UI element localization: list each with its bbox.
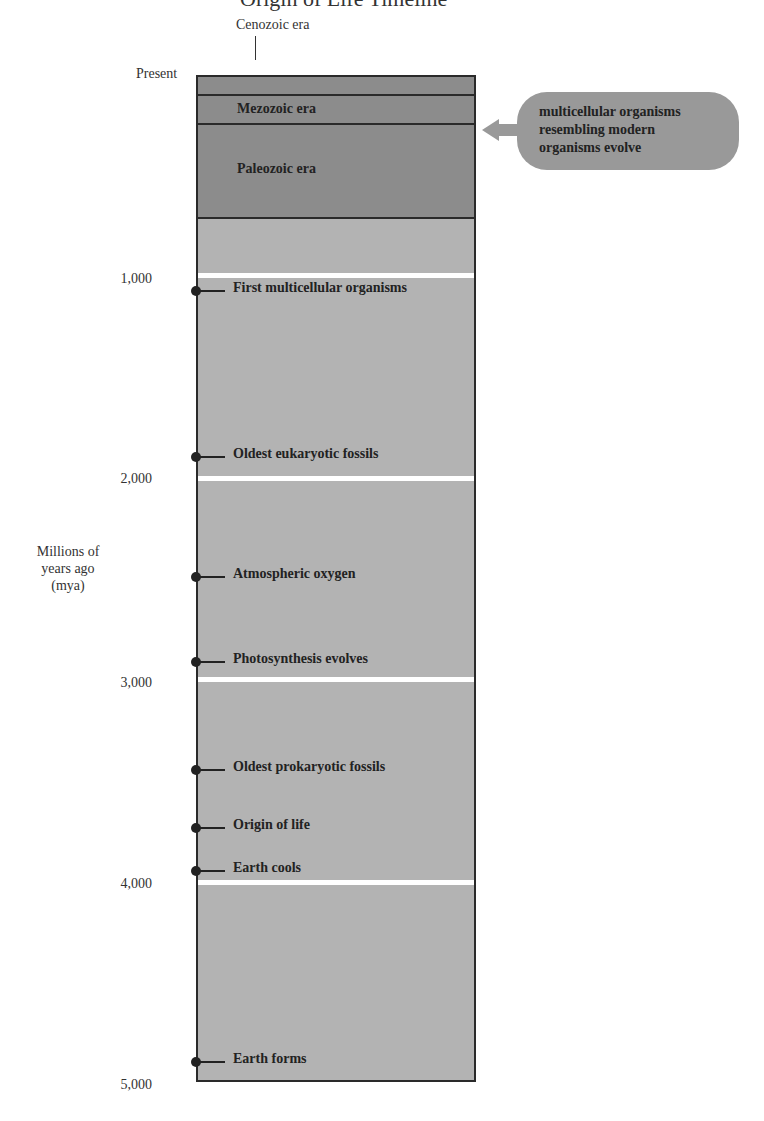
callout-text: multicellular organisms resembling moder… [539, 103, 681, 157]
title-cut-off: Origin of Life Timeline [240, 0, 447, 12]
axis-title: Millions of years ago (mya) [28, 543, 108, 594]
event-label: Oldest prokaryotic fossils [233, 759, 385, 775]
gridline-1000 [198, 273, 474, 278]
event-label: Earth cools [233, 860, 301, 876]
cenozoic-label: Cenozoic era [236, 17, 309, 33]
cenozoic-band [198, 77, 474, 96]
mezozoic-band: Mezozoic era [198, 96, 474, 125]
mezozoic-label: Mezozoic era [237, 101, 316, 117]
event-label: Oldest eukaryotic fossils [233, 446, 378, 462]
leader-line [197, 456, 225, 458]
paleozoic-label: Paleozoic era [237, 161, 316, 177]
tick-present: Present [136, 66, 177, 82]
axis-title-line: years ago [28, 560, 108, 577]
tick-3000: 3,000 [92, 675, 152, 691]
tick-2000: 2,000 [92, 471, 152, 487]
event-label: Origin of life [233, 817, 310, 833]
leader-line [197, 576, 225, 578]
event-label: Atmospheric oxygen [233, 566, 356, 582]
leader-line [197, 827, 225, 829]
leader-line [197, 1061, 225, 1063]
tick-4000: 4,000 [92, 876, 152, 892]
callout-bubble: multicellular organisms resembling moder… [517, 92, 739, 170]
gridline-3000 [198, 677, 474, 682]
callout-line: organisms evolve [539, 139, 681, 157]
timeline-bar: Mezozoic era Paleozoic era First multice… [196, 75, 476, 1082]
callout-line: multicellular organisms [539, 103, 681, 121]
leader-line [197, 290, 225, 292]
event-label: First multicellular organisms [233, 280, 407, 296]
callout-line: resembling modern [539, 121, 681, 139]
leader-line [197, 769, 225, 771]
tick-1000: 1,000 [92, 271, 152, 287]
gridline-4000 [198, 880, 474, 885]
leader-line [197, 870, 225, 872]
gridline-2000 [198, 476, 474, 481]
paleozoic-band: Paleozoic era [198, 125, 474, 219]
axis-title-line: (mya) [28, 577, 108, 594]
axis-title-line: Millions of [28, 543, 108, 560]
event-label: Earth forms [233, 1051, 307, 1067]
tick-5000: 5,000 [92, 1077, 152, 1093]
event-label: Photosynthesis evolves [233, 651, 368, 667]
cenozoic-leader-line [255, 36, 256, 60]
leader-line [197, 661, 225, 663]
